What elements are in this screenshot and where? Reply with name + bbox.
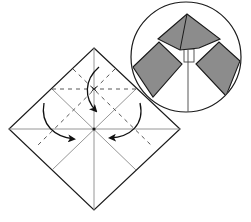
origami-diagram: Origami fold step: fold the three corner… — [0, 0, 251, 222]
center-point — [92, 127, 95, 130]
detail-view — [131, 2, 241, 112]
diagram-canvas — [0, 0, 251, 222]
